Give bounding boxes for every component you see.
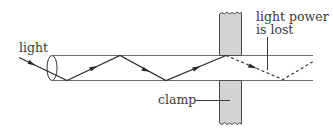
- arrow-head-icon: [248, 63, 257, 68]
- label-clamp: clamp: [158, 93, 196, 107]
- clamp-lower-block: [220, 81, 242, 125]
- escaping-ray: [226, 56, 314, 80]
- optical-fibre: [47, 56, 313, 81]
- arrow-head-icon: [192, 66, 201, 72]
- arrow-head-icon: [89, 66, 98, 71]
- label-light: light: [19, 41, 48, 55]
- arrow-head-icon: [28, 60, 37, 66]
- clamp: [220, 12, 242, 125]
- label-light-power-line2: is lost: [256, 23, 293, 37]
- clamp-upper-block: [220, 12, 242, 56]
- incoming-ray: [19, 58, 67, 81]
- fibre-clamp-diagram: light light power is lost clamp: [0, 0, 333, 133]
- fibre-end-face: [47, 56, 57, 81]
- ray-arrows: [89, 66, 201, 72]
